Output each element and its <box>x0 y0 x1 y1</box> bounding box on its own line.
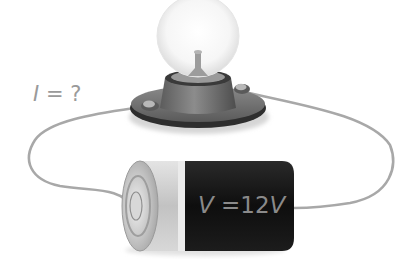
voltage-variable: V <box>198 192 214 218</box>
voltage-label: V =12V <box>198 192 285 218</box>
current-value: ? <box>70 82 81 106</box>
circuit-illustration <box>0 0 405 265</box>
terminal-right <box>234 84 250 94</box>
voltage-equals: = <box>221 192 240 218</box>
voltage-value: 12 <box>240 192 269 218</box>
current-equals: = <box>46 82 64 106</box>
current-variable: I <box>33 82 39 106</box>
battery-terminal <box>130 192 142 220</box>
circuit-diagram: I = ? V =12V <box>0 0 405 265</box>
voltage-unit: V <box>270 192 286 218</box>
current-label: I = ? <box>33 82 81 106</box>
